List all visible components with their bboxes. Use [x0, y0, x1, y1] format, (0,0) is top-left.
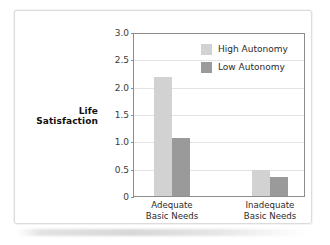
bar-adequate-low-autonomy [172, 138, 190, 196]
x-axis-label-adequate-line2: Basic Needs [124, 211, 220, 222]
x-axis-label-adequate-line1: Adequate [124, 200, 220, 211]
y-tick-label-2-0: 2.0 [101, 84, 129, 93]
chart-legend: High Autonomy Low Autonomy [201, 42, 301, 78]
x-axis-label-adequate: Adequate Basic Needs [124, 200, 220, 222]
x-axis-label-inadequate-line1: Inadequate [222, 200, 318, 211]
y-tick-label-1-0: 1.0 [101, 138, 129, 147]
figure-page: Life Satisfaction 3.0 2.5 2.0 1.5 1.0 0.… [0, 0, 330, 245]
legend-swatch-high-autonomy-icon [201, 44, 212, 55]
legend-label-high-autonomy: High Autonomy [218, 44, 288, 55]
bar-inadequate-low-autonomy [270, 177, 288, 196]
legend-item-low-autonomy: Low Autonomy [201, 60, 301, 74]
x-axis-label-inadequate-line2: Basic Needs [222, 211, 318, 222]
bar-adequate-high-autonomy [154, 77, 172, 196]
legend-item-high-autonomy: High Autonomy [201, 42, 301, 56]
x-axis-label-inadequate: Inadequate Basic Needs [222, 200, 318, 222]
y-tick-label-1-5: 1.5 [101, 111, 129, 120]
legend-swatch-low-autonomy-icon [201, 62, 212, 73]
y-tick-label-2-5: 2.5 [101, 56, 129, 65]
y-tick-label-0-5: 0.5 [101, 166, 129, 175]
y-axis-tick-labels: 3.0 2.5 2.0 1.5 1.0 0.5 0 [101, 33, 129, 197]
page-shadow-smudge [18, 229, 304, 236]
y-axis-title: Life Satisfaction [24, 106, 98, 126]
legend-label-low-autonomy: Low Autonomy [218, 62, 285, 73]
y-tick-mark-0 [131, 197, 134, 198]
bar-chart: Life Satisfaction 3.0 2.5 2.0 1.5 1.0 0.… [0, 0, 330, 245]
y-tick-label-3-0: 3.0 [101, 29, 129, 38]
bar-inadequate-high-autonomy [252, 170, 270, 196]
